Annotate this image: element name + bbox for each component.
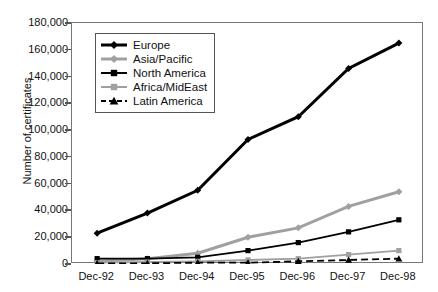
- x-tick-label: Dec-98: [363, 270, 433, 282]
- data-point-marker: [346, 252, 351, 257]
- legend-marker-icon: [100, 38, 128, 52]
- data-point-marker: [111, 70, 117, 76]
- legend-label: Asia/Pacific: [133, 52, 192, 66]
- legend-label: Africa/MidEast: [133, 80, 207, 94]
- data-point-marker: [245, 234, 252, 241]
- data-point-marker: [245, 248, 250, 253]
- chart-legend: EuropeAsia/PacificNorth AmericaAfrica/Mi…: [95, 33, 215, 113]
- data-point-marker: [395, 188, 402, 195]
- legend-item[interactable]: Latin America: [100, 94, 207, 108]
- legend-marker-icon: [100, 66, 128, 80]
- data-point-marker: [296, 240, 301, 245]
- legend-item[interactable]: Asia/Pacific: [100, 52, 207, 66]
- legend-label: Europe: [133, 38, 170, 52]
- legend-marker-icon: [100, 80, 128, 94]
- legend-item[interactable]: Europe: [100, 38, 207, 52]
- line-chart: Number of certificates 020,00040,00060,0…: [0, 0, 438, 292]
- legend-marker-icon: [100, 52, 128, 66]
- data-point-marker: [396, 217, 401, 222]
- data-point-marker: [396, 248, 401, 253]
- legend-label: Latin America: [133, 94, 203, 108]
- data-point-marker: [110, 41, 118, 49]
- legend-label: North America: [133, 66, 206, 80]
- data-point-marker: [111, 84, 117, 90]
- legend-item[interactable]: Africa/MidEast: [100, 80, 207, 94]
- legend-item[interactable]: North America: [100, 66, 207, 80]
- legend-marker-icon: [100, 94, 128, 108]
- data-point-marker: [110, 55, 118, 63]
- data-point-marker: [346, 229, 351, 234]
